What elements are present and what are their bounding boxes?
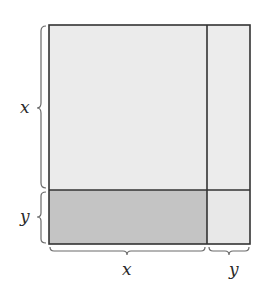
bottom-brace-y bbox=[209, 247, 249, 255]
square-partition-diagram: x y x y bbox=[0, 0, 270, 296]
left-brace-y bbox=[37, 192, 46, 243]
bottom-label-x: x bbox=[122, 259, 132, 279]
region-xy-right bbox=[207, 25, 250, 190]
bottom-brace-x bbox=[50, 247, 205, 255]
left-brace-x bbox=[37, 26, 46, 188]
region-x-squared bbox=[49, 25, 207, 190]
left-label-y: y bbox=[19, 206, 30, 226]
region-y-squared bbox=[207, 190, 250, 244]
left-label-x: x bbox=[20, 97, 30, 117]
bottom-label-y: y bbox=[228, 259, 239, 279]
region-xy-bottom bbox=[49, 190, 207, 244]
